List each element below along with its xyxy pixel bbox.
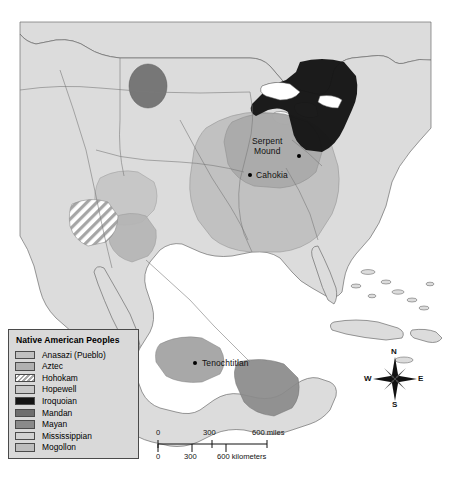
legend-swatch-hopewell (15, 385, 35, 394)
legend-item-mississippian: Mississippian (15, 430, 132, 442)
legend-label-mogollon: Mogollon (42, 443, 76, 451)
compass-west-label: W (364, 374, 372, 383)
city-label-cahokia: Cahokia (256, 170, 288, 180)
legend-label-aztec: Aztec (42, 362, 63, 370)
city-marker-serpent-mound (297, 154, 301, 158)
city-label-tenochtitlan: Tenochtitlan (202, 358, 249, 368)
legend-swatch-hohokam (15, 374, 35, 383)
legend-label-hopewell: Hopewell (42, 385, 76, 393)
legend-item-mandan: Mandan (15, 407, 132, 419)
legend-swatch-mayan (15, 420, 35, 429)
legend-swatch-iroquoian (15, 397, 35, 406)
legend-label-iroquoian: Iroquoian (42, 397, 77, 405)
legend-swatch-aztec (15, 362, 35, 371)
legend-item-hopewell: Hopewell (15, 384, 132, 396)
compass-east-label: E (418, 374, 423, 383)
legend-label-anasazi: Anasazi (Pueblo) (42, 351, 106, 359)
map-figure: Serpent Mound Cahokia Tenochtitlan Nativ… (0, 0, 451, 480)
compass-rose: N E S W (364, 345, 426, 411)
legend-swatch-mandan (15, 409, 35, 418)
scale-miles-tick-300: 300 (203, 428, 216, 437)
map-legend: Native American Peoples Anasazi (Pueblo)… (8, 329, 139, 459)
legend-label-hohokam: Hohokam (42, 374, 78, 382)
scale-km-tick-600: 600 kilometers (217, 452, 266, 461)
legend-label-mandan: Mandan (42, 409, 72, 417)
scale-km-tick-0: 0 (156, 452, 160, 461)
legend-swatch-mississippian (15, 432, 35, 441)
scale-bar: 0 300 600 miles 0 300 600 kilometers (155, 432, 285, 466)
legend-swatch-anasazi (15, 351, 35, 360)
scale-km-tick-300: 300 (184, 452, 197, 461)
legend-item-mayan: Mayan (15, 419, 132, 431)
legend-item-anasazi: Anasazi (Pueblo) (15, 349, 132, 361)
region-mandan (129, 64, 167, 108)
legend-item-hohokam: Hohokam (15, 372, 132, 384)
legend-label-mayan: Mayan (42, 420, 67, 428)
legend-item-mogollon: Mogollon (15, 442, 132, 454)
compass-south-label: S (392, 400, 397, 409)
legend-label-mississippian: Mississippian (42, 432, 92, 440)
compass-north-label: N (391, 347, 397, 356)
legend-item-aztec: Aztec (15, 361, 132, 373)
city-marker-tenochtitlan (193, 361, 197, 365)
legend-title: Native American Peoples (16, 335, 132, 345)
city-label-serpent-mound: Serpent Mound (252, 136, 282, 156)
scale-miles-tick-0: 0 (156, 428, 160, 437)
legend-swatch-mogollon (15, 443, 35, 452)
city-marker-cahokia (248, 173, 252, 177)
scale-miles-tick-600: 600 miles (252, 428, 285, 437)
legend-item-iroquoian: Iroquoian (15, 395, 132, 407)
